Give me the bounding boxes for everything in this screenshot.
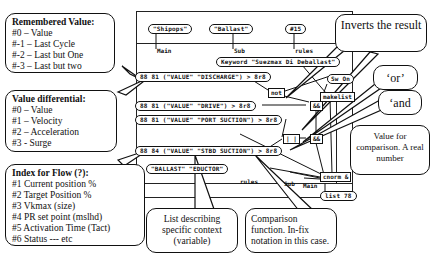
not-operator[interactable]: not — [268, 88, 285, 98]
condition-port-suction[interactable]: 88 81 ("VALUE" "PORT SUCTION") > 8r8 — [135, 115, 282, 125]
port-label-sub: Sub — [234, 47, 245, 54]
callout-line: #6 Status --- etc — [12, 234, 138, 245]
and-operator-1[interactable]: && — [310, 101, 323, 111]
callout-and: ‘and — [378, 90, 422, 115]
callout-title: Index for Flow (?): — [12, 168, 138, 179]
list-node[interactable]: list 78 — [320, 191, 357, 201]
callout-line: #1 Current position % — [12, 179, 138, 190]
and-operator-2[interactable]: && — [310, 134, 323, 144]
callout-line: #2 – Acceleration — [12, 127, 110, 138]
port-label-rules: rules — [295, 47, 313, 54]
cnorm-operator[interactable]: cnorm & — [320, 172, 351, 182]
condition-drive[interactable]: 88 81 ("VALUE" "DRIVE") > 8r8 — [135, 101, 256, 111]
keyword-node[interactable]: Keyword "Suezmax Di Deballast" — [216, 57, 340, 67]
context-node-ballast-eductor[interactable]: "BALLAST" "EDUCTOR" — [146, 164, 228, 174]
switch-on-node[interactable]: Sw On — [327, 74, 354, 84]
callout-flow-index: Index for Flow (?): #1 Current position … — [5, 164, 145, 246]
callout-line: #3 Vkmax (size) — [12, 201, 138, 212]
callout-value-differential: Value differential: #0 – Value #1 – Velo… — [5, 90, 117, 152]
callout-line: #1 – Velocity — [12, 116, 110, 127]
port-label-sub-bottom: Sub — [284, 180, 295, 187]
divider — [336, 90, 337, 184]
condition-discharge[interactable]: 88 81 ("VALUE" "DISCHARGE") > 8r8 — [135, 72, 271, 82]
port-label-rules-bottom: rules — [240, 178, 258, 185]
callout-line: #3 - Surge — [12, 138, 110, 149]
callout-title: Value differential: — [12, 94, 110, 105]
callout-line: #-1 – Last Cycle — [12, 39, 108, 50]
or-operator[interactable]: | | — [283, 134, 300, 144]
callout-title: Remembered Value: — [12, 17, 108, 28]
divider — [136, 43, 353, 44]
callout-value-comparison: Value for comparison. A real number — [350, 125, 430, 175]
callout-line: #-2 – Last but One — [12, 50, 108, 61]
callout-list-context: List describing specific context (variab… — [146, 208, 238, 253]
callout-line: #2 Target Position % — [12, 190, 138, 201]
callout-line: #-3 – Last but two — [12, 61, 108, 72]
makelist-operator[interactable]: makelist — [320, 92, 355, 102]
callout-inverts: Inverts the result — [335, 14, 427, 52]
port-label-main: Main — [157, 47, 171, 54]
context-node-shipops[interactable]: "Shipops" — [148, 24, 192, 34]
condition-stbd-suction[interactable]: 88 84 ("VALUE" "STBD SUCTION") > 8r8 — [135, 146, 282, 156]
callout-line: #5 Activation Time (Tact) — [12, 223, 138, 234]
port-label-main-bottom: Main — [303, 182, 317, 189]
callout-line: #4 PR set point (mslhd) — [12, 212, 138, 223]
callout-line: #0 – Value — [12, 28, 108, 39]
callout-line: #0 – Value — [12, 105, 110, 116]
context-node-15[interactable]: #15 — [285, 24, 306, 34]
callout-or: ‘or’ — [373, 65, 418, 90]
callout-remembered-value: Remembered Value: #0 – Value #-1 – Last … — [5, 13, 115, 73]
callout-comparison-function: Comparison function. In-fix notation in … — [245, 208, 337, 253]
context-node-ballast[interactable]: "Ballast" — [209, 24, 253, 34]
